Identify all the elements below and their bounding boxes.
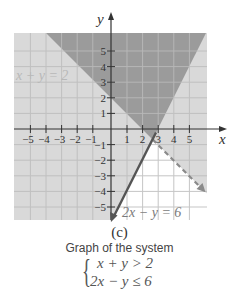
x-tick-label: 4 bbox=[171, 133, 177, 145]
y-tick-label: 2 bbox=[101, 92, 107, 104]
y-tick-label: 3 bbox=[101, 76, 107, 88]
x-tick-label: −2 bbox=[69, 133, 81, 145]
x-tick-label: 1 bbox=[124, 133, 130, 145]
y-axis-label: y bbox=[95, 11, 104, 27]
figure-label: (c) bbox=[0, 224, 239, 241]
y-axis-arrow-icon bbox=[108, 12, 114, 20]
inequality-2: 2x − y ≤ 6 bbox=[90, 273, 152, 290]
inequality-1: x + y > 2 bbox=[97, 255, 153, 272]
y-tick-label: −2 bbox=[94, 154, 106, 166]
x-tick-label: −5 bbox=[22, 133, 34, 145]
x-tick-label: −3 bbox=[54, 133, 66, 145]
y-tick-label: −1 bbox=[94, 139, 106, 151]
x-tick-label: 3 bbox=[155, 133, 161, 145]
y-tick-label: 1 bbox=[101, 107, 107, 119]
y-tick-label: 5 bbox=[101, 45, 107, 57]
figure-caption: Graph of the system bbox=[0, 241, 239, 255]
x-axis-label: x bbox=[218, 131, 226, 147]
x-tick-label: −4 bbox=[38, 133, 50, 145]
inequality-graph: −5 −4 −3 −2 −1 1 2 3 4 5 5 4 3 2 1 −1 −2… bbox=[0, 0, 239, 225]
x-tick-label: 5 bbox=[187, 133, 193, 145]
y-tick-label: 4 bbox=[101, 61, 107, 73]
line-label-x-plus-y: x + y = 2 bbox=[15, 68, 68, 83]
y-tick-label: −5 bbox=[94, 201, 106, 213]
line-label-2x-minus-y: 2x − y = 6 bbox=[122, 205, 181, 220]
y-tick-label: −3 bbox=[94, 170, 106, 182]
x-tick-label: 2 bbox=[140, 133, 146, 145]
y-tick-label: −4 bbox=[94, 185, 106, 197]
